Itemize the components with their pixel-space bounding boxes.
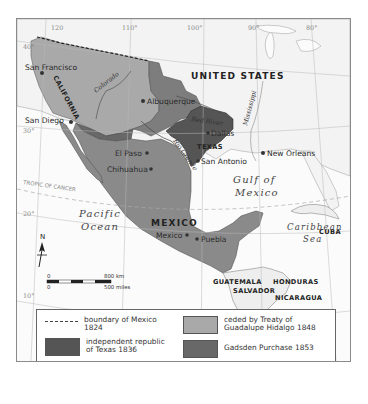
svg-text:800 km: 800 km [104,273,124,279]
label-nicaragua: NICARAGUA [275,294,323,302]
label-pacific: Pacific [78,208,121,219]
svg-text:500 miles: 500 miles [104,284,131,290]
map-legend: boundary of Mexico1824 independent repub… [36,309,336,362]
label-san-francisco: San Francisco [25,63,78,72]
legend-item-boundary-1824: boundary of Mexico1824 [45,316,157,333]
label-caribbean: Caribbean [287,222,343,232]
legend-item-gadsden-1853: Gadsden Purchase 1853 [183,340,314,358]
swatch-gadsden-1853 [183,340,218,358]
label-albuquerque: Albuquerque [147,97,196,106]
label-puebla: Puebla [201,235,227,244]
label-guatemala: GUATEMALA [213,278,262,286]
swatch-texas-1836 [45,338,80,356]
label-united-states: UNITED STATES [191,71,285,81]
svg-text:N: N [40,233,45,241]
label-lon-100: 100° [187,24,202,32]
label-lat-40: 40° [23,43,34,51]
label-honduras: HONDURAS [273,278,319,286]
dashed-line-swatch [45,321,78,330]
legend-item-texas-1836: independent republicof Texas 1836 [45,338,165,356]
label-new-orleans: New Orleans [267,149,315,158]
label-lon-80: 80° [306,24,317,32]
label-ocean: Ocean [81,221,119,232]
label-lat-20: 20° [23,210,34,218]
label-lat-10: 10° [23,292,34,300]
label-mexico: MEXICO [151,218,198,228]
map-frame: UNITED STATES MEXICO CUBA GUATEMALA HOND… [16,18,351,362]
label-texas: TEXAS [197,143,223,151]
svg-text:0: 0 [47,284,51,290]
label-lon-90: 90° [248,24,259,32]
legend-item-ceded-1848: ceded by Treaty ofGuadalupe Hidalgo 1848 [183,316,316,334]
label-el-paso: El Paso [115,149,142,158]
label-lon-110: 110° [122,24,137,32]
swatch-ceded-1848 [183,316,218,334]
label-lon-120: 120 [51,24,63,32]
label-mexico-city: Mexico [156,231,183,240]
label-dallas: Dallas [211,129,234,138]
label-lat-30: 30° [23,127,34,135]
label-gulf-mexico: Mexico [234,187,279,198]
label-san-diego: San Diego [25,116,64,125]
label-san-antonio: San Antonio [201,157,247,166]
label-chihuahua: Chihuahua [107,165,148,174]
label-gulf-of: Gulf of [233,174,277,185]
svg-text:0: 0 [47,273,51,279]
label-sea: Sea [303,234,323,244]
label-salvador: SALVADOR [233,287,275,295]
